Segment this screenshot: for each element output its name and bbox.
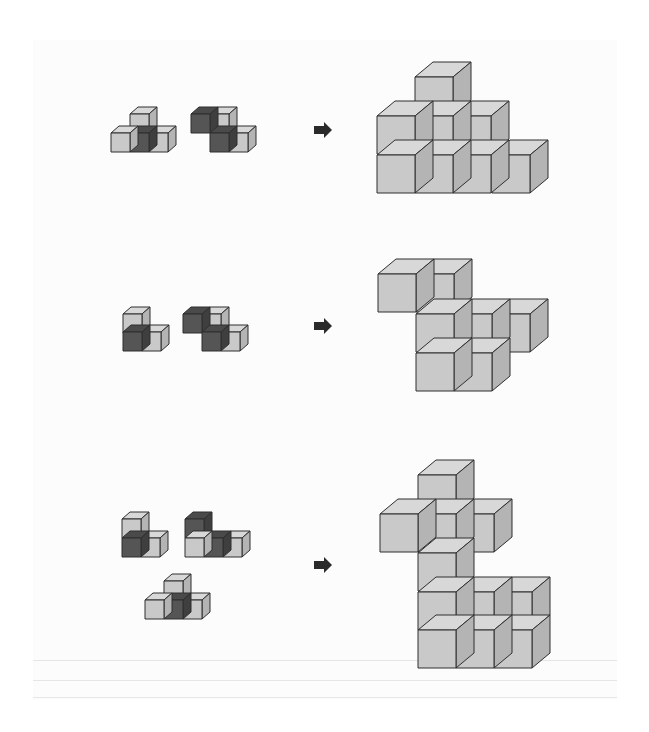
cube-diagram-canvas	[0, 0, 649, 732]
cube	[377, 140, 433, 193]
arrow-right-icon	[314, 318, 332, 334]
puzzle-2-result-shape	[378, 259, 548, 391]
cube	[416, 338, 472, 391]
dark-cube	[210, 126, 237, 152]
puzzle-2-piece-2	[183, 307, 248, 351]
cube	[185, 531, 212, 557]
puzzle-1-piece-2	[191, 107, 256, 152]
cube	[378, 259, 434, 312]
arrow-right-icon	[314, 557, 332, 573]
dark-cube	[123, 325, 150, 351]
dark-cube	[202, 325, 229, 351]
puzzle-sheet	[0, 0, 649, 732]
puzzle-3-result-shape	[380, 460, 550, 668]
dark-cube	[122, 531, 149, 557]
puzzle-1-result-shape	[377, 62, 548, 193]
puzzle-1-piece-1	[111, 107, 176, 152]
puzzle-3-piece-2	[185, 512, 250, 557]
arrow-right-icon	[314, 122, 332, 138]
puzzle-3-piece-3	[145, 574, 210, 619]
puzzle-2-piece-1	[123, 307, 169, 351]
cube	[380, 499, 436, 552]
cube	[111, 126, 138, 152]
cube	[145, 593, 172, 619]
cube	[418, 615, 474, 668]
puzzle-3-piece-1	[122, 512, 168, 557]
